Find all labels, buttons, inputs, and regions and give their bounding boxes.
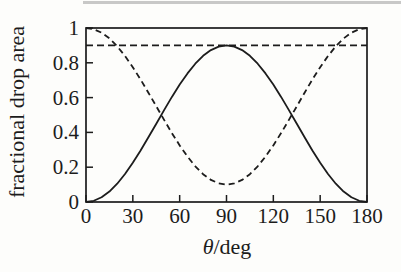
series-dashed-curve bbox=[86, 28, 367, 185]
y-axis-label: fractional drop area bbox=[4, 26, 30, 198]
x-tick-label: 120 bbox=[258, 204, 290, 228]
x-axis-label-theta-symbol: θ bbox=[203, 234, 214, 259]
y-tick-label: 0.2 bbox=[53, 155, 79, 179]
x-tick-label: 60 bbox=[169, 204, 190, 228]
line-chart-figure: 030609012015018000.20.40.60.81 fractiona… bbox=[0, 0, 401, 272]
y-tick-label: 0.4 bbox=[53, 120, 80, 144]
x-tick-label: 150 bbox=[304, 204, 336, 228]
y-tick-label: 0.6 bbox=[53, 86, 79, 110]
x-tick-label: 180 bbox=[351, 204, 383, 228]
x-tick-label: 90 bbox=[216, 204, 237, 228]
y-tick-label: 0.8 bbox=[53, 51, 79, 75]
x-axis-label-unit: /deg bbox=[213, 234, 251, 259]
x-tick-label: 30 bbox=[122, 204, 143, 228]
plot-border bbox=[86, 28, 367, 202]
x-tick-label: 0 bbox=[81, 204, 92, 228]
y-tick-label: 1 bbox=[69, 16, 80, 40]
series-solid-curve bbox=[86, 45, 367, 202]
y-tick-label: 0 bbox=[69, 190, 80, 214]
x-axis-label: θ/deg bbox=[203, 234, 252, 260]
chart-plot-area: 030609012015018000.20.40.60.81 bbox=[0, 0, 401, 272]
